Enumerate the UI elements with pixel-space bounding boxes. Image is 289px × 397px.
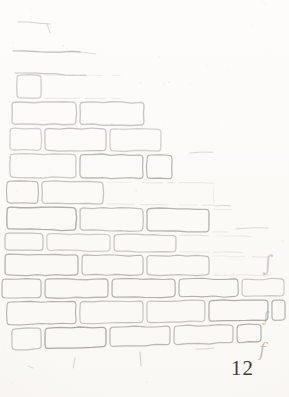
brick-outline [110, 326, 170, 346]
remnant-stroke [196, 348, 214, 349]
brick-outline [5, 233, 43, 250]
paper-speck [276, 318, 278, 320]
brick-outline [237, 324, 261, 343]
paper-speck [189, 84, 191, 86]
scanned-page: ∫∫f 12 [0, 0, 289, 397]
brick-outline [179, 278, 238, 297]
paper-speck [32, 324, 34, 326]
brick-outline [80, 102, 144, 126]
paper-speck [206, 65, 208, 67]
faint-brick-line [214, 252, 243, 253]
brick-outline [47, 234, 110, 252]
paper-speck [34, 242, 35, 243]
paper-speck [277, 316, 278, 317]
remnant-stroke [47, 24, 50, 33]
faint-brick-line [142, 183, 163, 184]
brick-outline [5, 254, 78, 276]
paper-speck [15, 157, 17, 159]
paper-speck [163, 83, 164, 84]
paper-speck [269, 43, 270, 44]
brick-outline [12, 102, 77, 125]
paper-speck [217, 126, 219, 128]
remnant-stroke [190, 152, 213, 153]
brick-outline [6, 181, 38, 204]
brick-outline [146, 155, 172, 179]
paper-speck [277, 108, 278, 109]
paper-speck [12, 383, 13, 384]
faint-brick-line [107, 204, 134, 205]
paper-speck [24, 364, 25, 365]
remnant-stroke [80, 52, 96, 54]
brick-outline [2, 279, 41, 298]
paper-speck [270, 48, 271, 49]
brick-outline [7, 301, 77, 325]
paper-speck [3, 348, 4, 349]
paper-speck [40, 74, 42, 76]
brick-outline [114, 234, 176, 252]
brick-wall-sketch: ∫∫f [0, 0, 289, 397]
paper-speck [13, 148, 15, 150]
remnant-stroke [236, 228, 268, 229]
paper-speck [158, 56, 160, 58]
paper-speck [249, 103, 250, 104]
brick-outline [80, 154, 143, 179]
paper-speck [59, 254, 61, 256]
brick-outline [42, 181, 104, 204]
paper-speck [227, 69, 229, 71]
paper-speck [12, 42, 14, 44]
paper-speck [98, 150, 99, 151]
paper-speck [86, 177, 88, 179]
brick-outline [82, 255, 143, 276]
paper-speck [111, 123, 113, 125]
faint-brick-line [213, 256, 245, 257]
page-number: 12 [231, 358, 254, 379]
paper-speck [73, 329, 74, 330]
remnant-stroke [140, 352, 141, 366]
brick-outline [45, 327, 106, 348]
pencil-squiggle: ∫ [262, 251, 274, 276]
paper-speck [163, 124, 164, 125]
paper-speck [216, 275, 217, 276]
brick-outline [80, 301, 143, 324]
remnant-stroke [28, 366, 33, 368]
remnant-stroke [18, 22, 50, 24]
faint-brick-line [180, 235, 209, 236]
brick-outline [45, 279, 108, 299]
paper-speck [144, 223, 146, 225]
paper-speck [282, 240, 284, 242]
brick-outline [10, 128, 42, 150]
paper-speck [31, 9, 33, 11]
brick-outline [10, 154, 76, 179]
brick-outline [110, 129, 161, 152]
brick-outline [80, 208, 143, 232]
paper-speck [103, 333, 105, 335]
faint-brick-line [180, 252, 210, 253]
pencil-squiggle: f [257, 339, 269, 360]
brick-outline [12, 328, 41, 350]
pencil-squiggle: ∫ [262, 308, 270, 326]
paper-speck [263, 274, 265, 276]
brick-outline [147, 255, 209, 276]
paper-speck [135, 189, 137, 191]
paper-speck [49, 168, 51, 170]
paper-speck [87, 39, 88, 40]
brick-outline [17, 75, 42, 99]
paper-speck [140, 82, 142, 84]
paper-speck [3, 279, 4, 280]
paper-speck [38, 330, 39, 331]
brick-outline [112, 279, 175, 298]
brick-outline [45, 128, 106, 151]
paper-speck [64, 8, 65, 9]
faint-brick-line [217, 236, 251, 237]
paper-speck [241, 224, 243, 226]
paper-speck [261, 0, 263, 2]
paper-speck [155, 229, 156, 230]
remnant-stroke [13, 51, 80, 52]
brick-outline [174, 325, 233, 345]
remnant-stroke [73, 358, 75, 368]
brick-outline [147, 300, 205, 323]
faint-brick-line [213, 185, 214, 203]
brick-outline [147, 208, 209, 232]
paper-speck [14, 302, 15, 303]
paper-speck [146, 381, 148, 383]
